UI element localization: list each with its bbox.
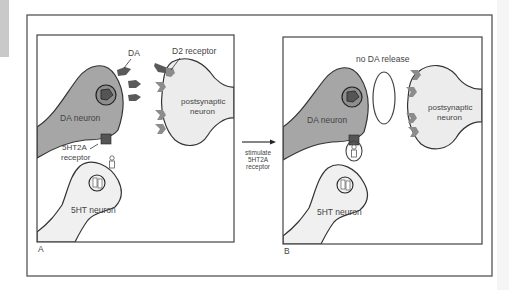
panel-b: no DA release postsynaptic neuron DA neu… <box>283 37 482 256</box>
transition-arrow: stimulate 5HT2A receptor <box>242 140 276 172</box>
da-pointer <box>124 59 131 68</box>
panel-a-letter: A <box>38 244 44 254</box>
label-stimulate: stimulate <box>245 149 271 156</box>
5ht-neuron <box>37 162 122 242</box>
label-postsynaptic: postsynaptic <box>428 103 472 112</box>
serotonin-molecule-body <box>352 150 357 157</box>
label-da: DA <box>128 48 140 58</box>
label-postsynaptic-neuron: neuron <box>437 113 462 122</box>
label-stimulate-receptor: receptor <box>246 163 271 171</box>
label-postsynaptic-neuron: neuron <box>190 107 215 116</box>
serotonin-molecule <box>352 145 356 149</box>
da-molecule <box>117 67 131 76</box>
5ht2a-pointer <box>90 144 98 149</box>
serotonin-in-vesicle <box>341 180 345 189</box>
serotonin-in-vesicle <box>98 179 102 188</box>
serotonin-molecule-body <box>110 161 115 168</box>
no-release-ellipse <box>373 72 395 124</box>
serotonin-molecule <box>110 156 114 160</box>
label-5ht-neuron: 5HT neuron <box>71 205 116 215</box>
label-d2-receptor: D2 receptor <box>172 46 217 56</box>
serotonin-in-vesicle <box>93 178 97 187</box>
5ht2a-receptor <box>101 134 111 144</box>
figure-diagram: DA D2 receptor postsynaptic neuron DA ne… <box>0 0 509 290</box>
label-da-neuron: DA neuron <box>60 113 100 123</box>
label-receptor: receptor <box>61 153 91 162</box>
label-stimulate-5ht2a: 5HT2A <box>248 156 269 163</box>
panel-a: DA D2 receptor postsynaptic neuron DA ne… <box>37 35 234 254</box>
d2-receptor <box>155 124 166 134</box>
serotonin-in-vesicle <box>346 181 350 190</box>
label-da-neuron: DA neuron <box>307 115 347 125</box>
5ht-neuron <box>283 165 367 244</box>
label-5ht2a: 5HT2A <box>62 143 88 152</box>
panel-b-letter: B <box>284 246 290 256</box>
5ht2a-receptor <box>349 135 359 145</box>
label-postsynaptic: postsynaptic <box>181 97 225 106</box>
da-molecule <box>128 80 141 88</box>
label-no-da-release: no DA release <box>356 54 410 64</box>
label-5ht-neuron: 5HT neuron <box>317 207 362 217</box>
da-molecule <box>128 94 141 101</box>
